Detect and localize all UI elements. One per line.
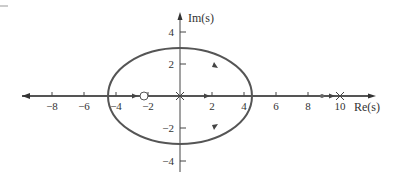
x-tick-label: 8	[305, 100, 311, 112]
x-tick-label: −8	[46, 100, 58, 112]
axis-arrow-right-segment-icon	[204, 94, 210, 99]
locus-arrow-upper-icon	[212, 62, 218, 68]
imag-axis-label: Im(s)	[188, 11, 214, 25]
x-tick-label: −6	[78, 100, 90, 112]
y-tick-label: −2	[162, 122, 174, 134]
x-tick-labels: −8 −6 −4 −2 2 4 6 8 10	[46, 100, 346, 112]
x-tick-label: 2	[209, 100, 215, 112]
y-tick-label: 2	[169, 58, 175, 70]
axis-arrow-near-pole-icon	[329, 94, 335, 99]
breakaway-dot-icon	[320, 94, 324, 98]
imag-axis	[178, 12, 183, 172]
imag-axis-up-arrow-icon	[178, 12, 183, 20]
root-locus-diagram: −8 −6 −4 −2 2 4 6 8 10 4 2 −2 −4 Im(s) R…	[0, 0, 401, 187]
zero-marker-icon	[140, 92, 148, 100]
real-axis-right-arrow-icon	[368, 94, 376, 99]
y-tick-label: 4	[169, 26, 175, 38]
x-tick-label: −2	[142, 100, 154, 112]
real-axis-label: Re(s)	[354, 100, 380, 114]
axis-arrow-left-segment-icon	[132, 94, 138, 99]
locus-arrow-lower-icon	[212, 124, 218, 130]
x-tick-label: 6	[273, 100, 279, 112]
real-axis-left-arrow-icon	[22, 93, 30, 99]
y-tick-label: −4	[162, 155, 174, 167]
x-tick-label: 10	[335, 100, 347, 112]
x-tick-label: 4	[241, 100, 247, 112]
